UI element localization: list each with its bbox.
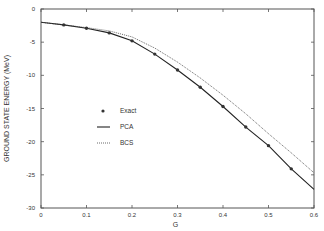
exact-data-point (176, 68, 179, 71)
y-axis-title: GROUND STATE ENERGY (MeV) (3, 55, 11, 162)
y-tick-label: -5 (30, 39, 36, 45)
exact-data-point (199, 86, 202, 89)
x-tick-label: 0.5 (264, 212, 273, 218)
exact-data-point (62, 23, 65, 26)
x-tick-label: 0 (39, 212, 43, 218)
y-tick-label: -20 (26, 139, 35, 145)
exact-data-point (244, 125, 247, 128)
series-layer (41, 22, 314, 189)
exact-data-point (85, 27, 88, 30)
x-tick-label: 0.6 (310, 212, 319, 218)
legend-exact-label: Exact (120, 107, 136, 114)
exact-data-point (130, 39, 133, 42)
y-tick-label: -10 (26, 72, 35, 78)
x-tick-label: 0.2 (128, 212, 137, 218)
exact-data-point (290, 167, 293, 170)
plot-border (41, 9, 314, 208)
x-tick-label: 0.3 (173, 212, 182, 218)
series-pca-line (41, 22, 314, 189)
plot-frame (41, 9, 314, 208)
y-tick-label: -30 (26, 205, 35, 211)
legend-pca-label: PCA (120, 123, 134, 130)
x-axis: 00.10.20.30.40.50.6 (39, 9, 319, 218)
legend-exact-marker (101, 109, 104, 112)
legend-bcs-label: BCS (120, 139, 134, 146)
legend: Exact PCA BCS (97, 107, 136, 146)
x-axis-title: G (173, 221, 178, 228)
chart: 00.10.20.30.40.50.6 0-5-10-15-20-25-30 G… (0, 0, 324, 231)
exact-data-point (108, 31, 111, 34)
y-tick-label: -15 (26, 106, 35, 112)
x-tick-label: 0.1 (82, 212, 91, 218)
x-tick-label: 0.4 (219, 212, 228, 218)
exact-data-point (221, 105, 224, 108)
exact-data-point (267, 144, 270, 147)
y-tick-label: -25 (26, 172, 35, 178)
y-axis: 0-5-10-15-20-25-30 (26, 6, 314, 211)
exact-data-point (153, 52, 156, 55)
y-tick-label: 0 (32, 6, 36, 12)
